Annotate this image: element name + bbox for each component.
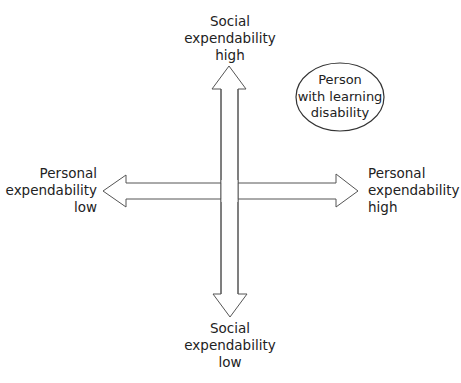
vertical-shaft-fill: [222, 180, 238, 202]
label-personal-expendability-low: Personal expendability low: [0, 165, 97, 216]
label-line: low: [160, 354, 300, 371]
label-personal-expendability-high: Personal expendability high: [368, 165, 461, 216]
horizontal-double-arrow: [103, 175, 221, 207]
horizontal-double-arrow-right: [238, 174, 358, 207]
label-line: high: [160, 47, 300, 64]
label-line: with learning: [296, 89, 384, 106]
label-social-expendability-high: Social expendability high: [160, 13, 300, 64]
label-line: disability: [296, 105, 384, 122]
label-line: expendability: [160, 337, 300, 354]
label-line: expendability: [0, 182, 97, 199]
label-line: expendability: [160, 30, 300, 47]
label-line: high: [368, 199, 461, 216]
label-line: Social: [160, 13, 300, 30]
person-node-label: Person with learning disability: [296, 72, 384, 122]
label-line: Person: [296, 72, 384, 89]
label-social-expendability-low: Social expendability low: [160, 320, 300, 371]
label-line: Social: [160, 320, 300, 337]
label-line: low: [0, 199, 97, 216]
label-line: Personal: [368, 165, 461, 182]
label-line: expendability: [368, 182, 461, 199]
label-line: Personal: [0, 165, 97, 182]
